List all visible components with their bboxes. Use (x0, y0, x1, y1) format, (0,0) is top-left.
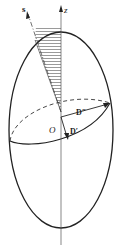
ellipsoid-diagram: s z O D″ D′ (0, 0, 121, 251)
z-axis-label: z (63, 5, 68, 15)
origin-label: O (49, 125, 56, 135)
z-axis-arrow-icon (59, 5, 63, 12)
hatched-region (35, 26, 61, 112)
d-prime-arrow-icon (64, 133, 69, 140)
s-axis-arrow-icon (26, 11, 30, 19)
d-double-prime-label: D″ (76, 108, 86, 117)
d-prime-label: D′ (70, 127, 78, 136)
s-axis-label: s (22, 4, 26, 14)
